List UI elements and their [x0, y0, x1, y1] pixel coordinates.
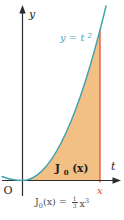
x-tick-label: x	[97, 185, 103, 196]
curve-equation-exponent: 2	[87, 32, 93, 40]
area-formula-caption: J0(x) = 1 3 x3	[0, 196, 124, 210]
plot-svg: y t O x y = t 2 J 0 (x)	[0, 0, 124, 220]
shaded-area-under-curve	[23, 30, 101, 181]
y-axis-arrowhead-icon	[19, 5, 25, 14]
caption-rhs: x3	[80, 197, 90, 209]
caption-lhs: J0(x) =	[35, 196, 70, 210]
caption-lhs-args: (x) =	[43, 196, 70, 207]
area-label-subscript: 0	[64, 168, 69, 177]
t-axis-label: t	[111, 160, 116, 173]
curve-equation-base: y = t	[59, 32, 85, 43]
t-axis-arrowhead-icon	[113, 177, 122, 183]
area-label-base: J	[54, 162, 60, 174]
curve-equation-label: y = t 2	[59, 32, 93, 44]
figure-canvas: y t O x y = t 2 J 0 (x) J0(x) = 1 3 x3	[0, 0, 124, 220]
caption-fraction-denominator: 3	[73, 203, 77, 209]
y-axis-label: y	[28, 8, 36, 21]
caption-fraction: 1 3	[72, 196, 78, 209]
caption-rhs-exponent: 3	[85, 197, 89, 205]
area-label-args: (x)	[72, 162, 88, 174]
